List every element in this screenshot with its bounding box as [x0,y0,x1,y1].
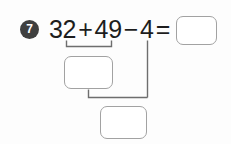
result-box[interactable] [176,16,217,45]
question-number-badge: 7 [20,20,39,39]
operand-second: 49 [95,15,122,44]
lower-bracket-path [89,90,148,98]
operand-first: 32 [49,15,76,44]
partial-sum-box[interactable] [64,56,113,89]
operand-third: 4 [140,15,154,44]
worksheet-question: 7 32 + 49 − 4 = [0,0,231,144]
operator-plus: + [76,15,94,44]
equation-expression: 32 + 49 − 4 = [49,14,170,44]
equals-sign: = [154,15,170,44]
final-answer-box[interactable] [100,106,147,139]
operator-minus: − [122,15,140,44]
